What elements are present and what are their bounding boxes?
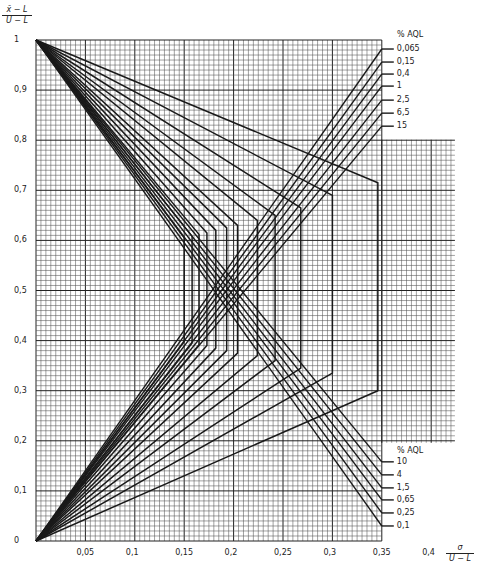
lower-aql-label: 10 — [397, 458, 407, 466]
upper-aql-label: 2,5 — [397, 96, 410, 104]
y-tick-label: 0,3 — [14, 387, 27, 395]
x-tick-label: 0,15 — [175, 549, 193, 557]
upper-aql-label: 0,4 — [397, 70, 410, 78]
legend-lower-title: % AQL — [397, 447, 423, 455]
upper-aql-label: 15 — [397, 122, 407, 130]
upper-aql-label: 0,065 — [397, 45, 420, 53]
x-tick-label: 0,25 — [274, 549, 292, 557]
legend-upper-title: % AQL — [397, 31, 423, 39]
y-tick-label: 0,8 — [14, 136, 27, 144]
y-tick-label: 0,2 — [14, 437, 27, 445]
x-axis-title: σ U − L — [446, 544, 474, 563]
upper-aql-label: 1 — [397, 82, 402, 90]
y-axis-title-denominator: U − L — [2, 16, 32, 25]
y-tick-label: 0,7 — [14, 186, 27, 194]
lower-aql-label: 0,25 — [397, 509, 415, 517]
y-axis-title: x̄ − L U − L — [2, 6, 32, 25]
y-tick-label: 1 — [14, 36, 19, 44]
lower-aql-label: 4 — [397, 471, 402, 479]
lower-aql-label: 0,65 — [397, 496, 415, 504]
upper-aql-label: 6,5 — [397, 109, 410, 117]
x-axis-title-numerator: σ — [446, 544, 474, 554]
x-tick-label: 0,1 — [126, 549, 139, 557]
x-tick-label: 0,3 — [323, 549, 336, 557]
lower-aql-label: 1,5 — [397, 484, 410, 492]
y-tick-label: 0,9 — [14, 86, 27, 94]
x-tick-label: 0,4 — [422, 549, 435, 557]
x-axis-title-denominator: U − L — [446, 554, 474, 563]
main-grid — [36, 40, 382, 541]
y-axis-title-numerator: x̄ − L — [2, 6, 32, 16]
x-tick-label: 0,05 — [76, 549, 94, 557]
y-tick-label: 0,6 — [14, 236, 27, 244]
extended-grid — [382, 140, 455, 443]
y-tick-label: 0 — [14, 537, 19, 545]
y-tick-label: 0,1 — [14, 487, 27, 495]
lower-aql-label: 0,1 — [397, 522, 410, 530]
y-tick-label: 0,4 — [14, 337, 27, 345]
upper-aql-label: 0,15 — [397, 58, 415, 66]
x-tick-label: 0,35 — [373, 549, 391, 557]
x-tick-label: 0,2 — [225, 549, 238, 557]
y-tick-label: 0,5 — [14, 287, 27, 295]
